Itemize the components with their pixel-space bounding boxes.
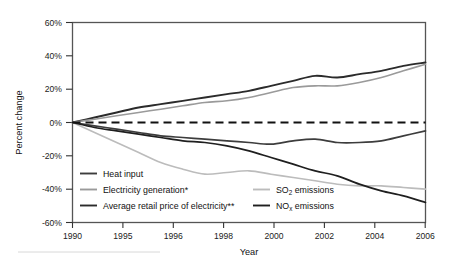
y-tick-label: -40%: [42, 184, 62, 194]
y-axis-title: Percent change: [14, 90, 24, 154]
chart-figure: 60% 40% 20% 0% -20% -40% -60% Percent ch…: [0, 0, 459, 264]
chart-background: [0, 0, 459, 264]
y-tick-label: 0%: [50, 118, 63, 128]
x-tick-label: 1990: [63, 231, 82, 241]
y-tick-label: -20%: [42, 151, 62, 161]
y-tick-label: 40%: [45, 51, 63, 61]
y-tick-label: -60%: [42, 218, 62, 228]
legend-label-nox-emissions: NOx emissions: [276, 201, 335, 212]
y-tick-label: 20%: [45, 84, 63, 94]
x-tick-label: 2004: [365, 231, 384, 241]
legend-label-heat-input: Heat input: [103, 169, 144, 179]
line-chart-svg: 60% 40% 20% 0% -20% -40% -60% Percent ch…: [0, 0, 459, 264]
legend-label-so2-emissions: SO2 emissions: [276, 185, 334, 196]
legend-label-retail-price: Average retail price of electricity**: [103, 201, 235, 211]
legend-label-electricity-generation: Electricity generation*: [103, 185, 189, 195]
x-tick-label: 1996: [164, 231, 183, 241]
x-tick-label: 2002: [315, 231, 334, 241]
x-tick-label: 1995: [113, 231, 132, 241]
y-tick-label: 60%: [45, 18, 63, 28]
x-axis-title: Year: [240, 247, 259, 257]
x-tick-label: 2000: [264, 231, 283, 241]
x-tick-label: 2006: [416, 231, 435, 241]
x-tick-label: 1998: [214, 231, 233, 241]
